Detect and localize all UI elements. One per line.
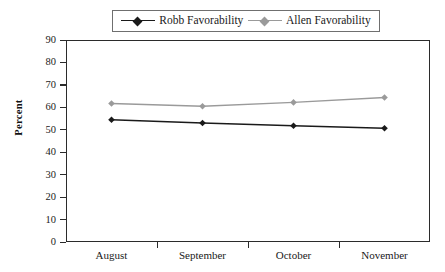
y-tick-label: 20 (24, 189, 56, 205)
data-point-robb-3 (381, 125, 388, 132)
plot-area (66, 40, 430, 242)
data-point-allen-0 (108, 100, 115, 107)
x-tick-mark (339, 242, 340, 248)
x-tick-label-october: October (248, 249, 339, 261)
series-layer (66, 40, 430, 242)
legend-label-robb: Robb Favorability (159, 15, 243, 27)
data-point-robb-1 (199, 120, 206, 127)
x-tick-mark (157, 242, 158, 248)
y-tick-label: 90 (24, 32, 56, 48)
x-tick-label-september: September (157, 249, 248, 261)
legend-marker-robb-icon (121, 16, 155, 26)
x-tick-mark (248, 242, 249, 248)
series-line-allen (112, 97, 385, 106)
series-line-robb (112, 120, 385, 129)
y-tick-label: 40 (24, 144, 56, 160)
y-axis-title: Percent (13, 78, 24, 158)
y-tick-label: 70 (24, 77, 56, 93)
y-tick-label: 0 (24, 234, 56, 250)
data-point-robb-2 (290, 122, 297, 129)
y-tick-label: 30 (24, 167, 56, 183)
x-tick-label-august: August (66, 249, 157, 261)
data-point-allen-3 (381, 94, 388, 101)
chart-legend: Robb Favorability Allen Favorability (112, 10, 380, 32)
x-tick-label-november: November (339, 249, 430, 261)
y-tick-label: 80 (24, 54, 56, 70)
data-point-robb-0 (108, 116, 115, 123)
data-point-allen-1 (199, 103, 206, 110)
y-tick-label: 60 (24, 99, 56, 115)
y-tick-label: 10 (24, 212, 56, 228)
legend-label-allen: Allen Favorability (286, 15, 371, 27)
data-point-allen-2 (290, 99, 297, 106)
favorability-line-chart: Robb Favorability Allen Favorability Per… (0, 0, 445, 272)
y-tick-label: 50 (24, 122, 56, 138)
legend-marker-allen-icon (248, 16, 282, 26)
legend-item-allen: Allen Favorability (248, 15, 371, 27)
legend-item-robb: Robb Favorability (121, 15, 243, 27)
